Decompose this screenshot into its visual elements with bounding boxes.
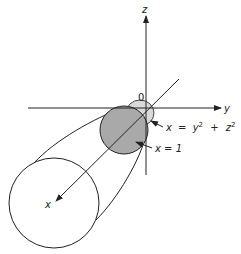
x-axis-label: x (44, 199, 51, 210)
plane-equation: x = 1 (154, 143, 182, 154)
paraboloid-pointer-arrow (151, 121, 163, 127)
z-axis-label: z (141, 4, 148, 15)
y-axis-label: y (223, 103, 231, 114)
diagram-canvas: z y x 0 x = y2 + z2 x = 1 (0, 0, 241, 254)
paraboloid-equation: x = y2 + z2 (165, 118, 236, 133)
origin-label: 0 (138, 92, 144, 103)
plane-disk-x-equals-1 (100, 106, 148, 154)
x-axis (56, 79, 179, 201)
